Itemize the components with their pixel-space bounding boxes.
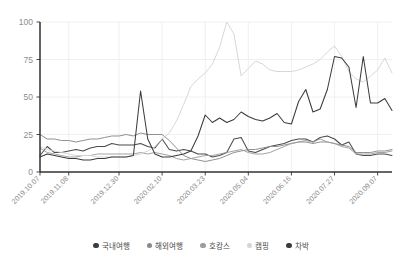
series-line-3	[40, 22, 392, 157]
x-axis-tick-label: 2020.03.23	[175, 174, 207, 206]
y-axis-tick-label: 100	[19, 17, 33, 27]
legend-item-camping[interactable]: 캠핑	[247, 240, 270, 251]
x-axis-tick-label: 2019.12.30	[89, 174, 121, 206]
y-axis-tick-label: 25	[24, 130, 34, 140]
series-line-2	[40, 139, 392, 160]
x-axis-tick-label: 2019.10.07	[10, 174, 42, 206]
y-axis-tick-label: 75	[24, 55, 34, 65]
x-axis-tick-label: 2020.02.10	[132, 174, 164, 206]
legend-item-overseas-travel[interactable]: 해외여행	[147, 240, 184, 251]
legend-item-label: 해외여행	[155, 240, 183, 251]
legend-item-domestic-travel[interactable]: 국내여행	[93, 240, 130, 251]
chart-legend: 국내여행해외여행호캉스캠핑차박	[0, 240, 402, 251]
chart-plot-area: 10075502502019.10.072019.11.082019.12.30…	[0, 0, 402, 257]
legend-item-label: 차박	[295, 240, 309, 251]
line-chart-container: 10075502502019.10.072019.11.082019.12.30…	[0, 0, 402, 257]
legend-dot-icon	[93, 243, 99, 249]
legend-item-label: 국내여행	[102, 240, 130, 251]
x-axis-tick-label: 2020.09.07	[347, 174, 379, 206]
legend-dot-icon	[200, 243, 206, 249]
x-axis-tick-label: 2020.07.27	[304, 174, 336, 206]
legend-item-hotel-vacation[interactable]: 호캉스	[200, 240, 230, 251]
x-axis-tick-label: 2020.06.16	[261, 174, 293, 206]
legend-item-car-camping[interactable]: 차박	[286, 240, 309, 251]
x-axis-tick-label: 2019.11.08	[39, 174, 70, 205]
x-axis-tick-label: 2020.05.04	[218, 174, 250, 206]
legend-dot-icon	[247, 243, 253, 249]
legend-item-label: 캠핑	[255, 240, 269, 251]
y-axis-tick-label: 50	[24, 92, 34, 102]
legend-item-label: 호캉스	[209, 240, 230, 251]
legend-dot-icon	[286, 243, 292, 249]
legend-dot-icon	[147, 243, 153, 249]
